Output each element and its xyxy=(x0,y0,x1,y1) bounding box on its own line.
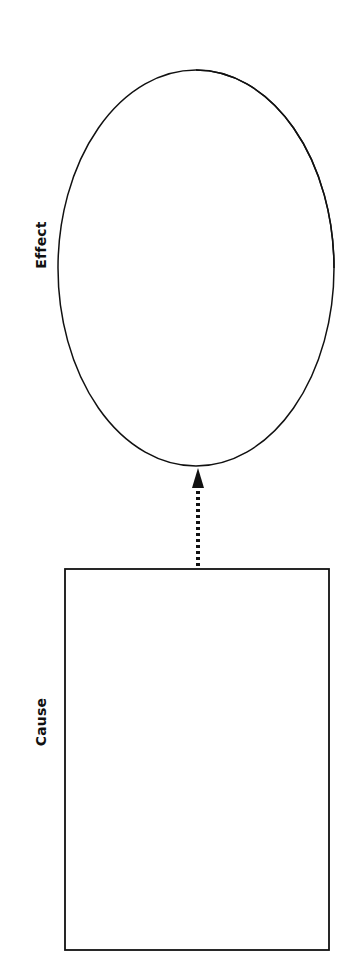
effect-ellipse xyxy=(58,70,334,466)
cause-label: Cause xyxy=(33,698,49,747)
diagram-canvas xyxy=(0,0,356,978)
effect-ellipse-shadow xyxy=(196,70,334,268)
cause-box xyxy=(65,569,329,950)
arrowhead-icon xyxy=(192,468,204,488)
effect-label: Effect xyxy=(33,221,49,268)
